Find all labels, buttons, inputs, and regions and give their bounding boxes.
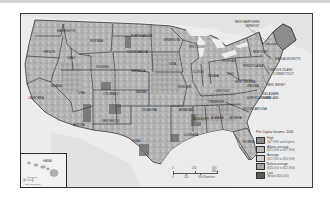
state-label: Wisconsin — [189, 47, 204, 50]
state-label: Mississippi — [193, 119, 209, 122]
state-label: Virginia — [247, 86, 259, 89]
state-label: Illinois — [193, 72, 204, 75]
scale-tick-label: 250 — [192, 167, 196, 170]
legend-item-high: High($27,996 and higher) — [256, 137, 312, 145]
callout-label: Massachusetts — [275, 58, 301, 61]
state-label: Nevada — [51, 86, 62, 89]
legend-swatch — [256, 155, 265, 162]
state-label: Tennessee — [208, 102, 224, 105]
state-label: Arizona — [73, 125, 85, 128]
scale-tick-label: 500 Kilometers — [198, 176, 215, 179]
inset-scale-miles: 100 Miles — [27, 176, 37, 178]
legend-swatch — [256, 146, 265, 153]
state-label: Kansas — [136, 92, 147, 95]
state-label: New York — [253, 52, 267, 55]
legend-swatch — [256, 137, 265, 144]
legend-swatch — [256, 163, 265, 170]
state-label: South Dakota — [127, 52, 148, 55]
state-label: Missouri — [178, 87, 191, 90]
state-label: California — [28, 98, 44, 101]
state-label: Texas — [132, 141, 141, 144]
legend-item-average: Average($22,996 to $25,994) — [256, 154, 312, 162]
legend-range: (Below $16,000) — [267, 175, 289, 178]
legend: Per Capita Income, 2000 High($27,996 and… — [256, 131, 312, 180]
state-label: Oregon — [43, 52, 55, 55]
callout-label: New Jersey — [267, 84, 286, 87]
inset-label: Hawaii — [43, 161, 52, 164]
callout-label: Connecticut — [273, 73, 294, 76]
state-label: Utah — [78, 93, 85, 96]
legend-swatch — [256, 172, 265, 179]
state-label: Wyoming — [96, 67, 109, 70]
state-label: West Virginia — [235, 82, 255, 85]
state-label: Washington — [57, 31, 75, 34]
state-label: Ohio — [227, 74, 234, 77]
state-label: Oklahoma — [142, 110, 157, 113]
callout-label: Vermont — [245, 25, 259, 28]
state-label: Idaho — [67, 58, 75, 61]
scale-tick-label: 0 — [172, 167, 173, 170]
legend-range: ($27,996 and higher) — [267, 141, 295, 144]
state-label: Pennsylvania — [243, 66, 263, 69]
state-label: Nebraska — [131, 71, 146, 74]
callout-label: Maryland — [263, 97, 279, 100]
state-label: Indiana — [208, 76, 219, 79]
legend-range: ($25,996 to $27,994) — [267, 149, 295, 152]
state-label: New Mexico — [102, 121, 120, 124]
scale-tick-label: 250 — [184, 176, 188, 179]
state-label: Montana — [90, 41, 103, 44]
legend-range: ($16,000 to $22,994) — [267, 167, 295, 170]
legend-item-low: Low(Below $16,000) — [256, 172, 312, 180]
legend-item-below-average: Below average($16,000 to $22,994) — [256, 163, 312, 171]
state-label: Michigan — [222, 61, 235, 64]
state-label: Georgia — [229, 118, 241, 121]
state-label: Alabama — [211, 118, 224, 121]
legend-range: ($22,996 to $25,994) — [267, 158, 295, 161]
state-label: Iowa — [169, 64, 176, 67]
scale-tick-label: 0 — [172, 176, 173, 179]
state-label: Colorado — [103, 94, 118, 97]
state-label: North Dakota — [131, 36, 152, 39]
state-label: Kentucky — [216, 91, 231, 94]
state-label: Louisiana — [184, 135, 198, 138]
scale-tick-label: 500 Miles — [212, 167, 220, 173]
state-label: South Carolina — [243, 109, 267, 112]
scale-bar: 0 250 500 Miles 0 250 500 Kilometers — [172, 167, 220, 181]
state-label: Minnesota — [164, 40, 180, 43]
state-label: Florida — [243, 142, 255, 145]
legend-item-above-average: Above average($25,996 to $27,994) — [256, 146, 312, 154]
hawaii-inset: Hawaii 100 Miles 100 Kilometers — [20, 153, 67, 188]
state-label: Arkansas — [179, 110, 194, 113]
legend-title: Per Capita Income, 2000 — [256, 131, 312, 135]
top-bar — [0, 0, 330, 3]
inset-scale-km: 100 Kilometers — [25, 183, 40, 185]
